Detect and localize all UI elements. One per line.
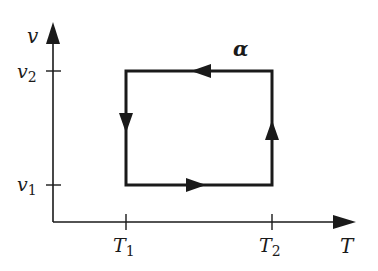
- cycle-rectangle: [126, 71, 272, 185]
- axes: [46, 22, 356, 230]
- cycle-path: [119, 64, 279, 192]
- v1-label: v1: [17, 173, 37, 198]
- v2-label: v2: [17, 60, 37, 85]
- T2-label: T2: [259, 234, 281, 259]
- x-axis-label: T: [340, 234, 355, 258]
- cycle-diagram: v T v2 v1 T1 T2 α: [0, 0, 378, 271]
- T1-label: T1: [113, 234, 135, 259]
- arrow-up-icon: [265, 120, 279, 140]
- arrow-right-icon: [186, 178, 206, 192]
- axis-labels: v T v2 v1 T1 T2 α: [17, 24, 355, 259]
- arrow-left-icon: [191, 64, 211, 78]
- y-axis-arrowhead-icon: [46, 22, 60, 44]
- y-axis-label: v: [27, 24, 39, 48]
- x-axis-arrowhead-icon: [333, 215, 356, 229]
- cycle-label: α: [233, 37, 248, 61]
- arrow-down-icon: [119, 113, 133, 133]
